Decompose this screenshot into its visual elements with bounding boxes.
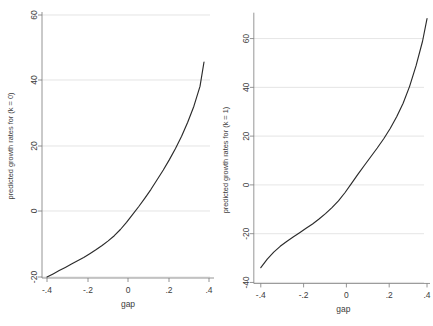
- x-tick-label: -.2: [299, 290, 309, 300]
- x-tick-label: -.4: [256, 290, 266, 300]
- y-tick-label: 40: [241, 82, 251, 92]
- x-tickmarks-left: [47, 278, 209, 282]
- x-tick-label: -.2: [83, 285, 93, 295]
- y-tick-label: -20: [241, 227, 251, 240]
- x-tick-labels-right: -.4 -.2 0 .2 .4: [256, 290, 431, 300]
- x-tick-labels-left: -.4 -.2 0 .2 .4: [42, 285, 213, 295]
- y-tick-labels-right: 60 40 20 0 -20 -40: [241, 34, 251, 289]
- y-tick-label: 0: [241, 182, 251, 187]
- chart-panel-left: 60 40 20 0 -20 -.4 -.2 0 .2 .4 gap predi…: [0, 0, 216, 326]
- y-axis-title-left: predicted growth rates for (k = 0): [6, 92, 15, 199]
- x-axis-title-left: gap: [121, 299, 135, 309]
- y-axis-title-right: predicted growth rates for (k = 1): [221, 107, 230, 214]
- curve-line-right: [261, 19, 427, 268]
- gridlines-left: [42, 15, 210, 277]
- x-tickmarks-right: [261, 283, 427, 287]
- plot-left: 60 40 20 0 -20 -.4 -.2 0 .2 .4 gap predi…: [0, 0, 216, 326]
- x-tick-label: .4: [205, 285, 212, 295]
- curve-line-left: [47, 62, 204, 277]
- y-tick-label: 0: [29, 208, 39, 213]
- y-tick-labels-left: 60 40 20 0 -20: [29, 10, 39, 283]
- y-tick-label: -20: [29, 271, 39, 284]
- y-tick-label: 60: [241, 34, 251, 44]
- y-tickmarks-right: [250, 39, 254, 283]
- x-tick-label: .4: [423, 290, 430, 300]
- gridlines-right: [254, 39, 424, 283]
- figure-container: 60 40 20 0 -20 -.4 -.2 0 .2 .4 gap predi…: [0, 0, 433, 326]
- x-tick-label: .2: [386, 290, 393, 300]
- y-tick-label: 20: [241, 131, 251, 141]
- chart-panel-right: 60 40 20 0 -20 -40 -.4 -.2 0 .2 .4 gap p…: [216, 0, 432, 326]
- x-axis-title-right: gap: [336, 304, 350, 314]
- plot-right: 60 40 20 0 -20 -40 -.4 -.2 0 .2 .4 gap p…: [216, 0, 432, 326]
- x-tick-label: .2: [165, 285, 172, 295]
- y-tick-label: 20: [29, 141, 39, 151]
- y-tick-label: 60: [29, 10, 39, 20]
- y-tick-label: 40: [29, 75, 39, 85]
- y-tick-label: -40: [241, 276, 251, 289]
- x-tick-label: 0: [344, 290, 349, 300]
- x-tick-label: -.4: [42, 285, 52, 295]
- x-tick-label: 0: [126, 285, 131, 295]
